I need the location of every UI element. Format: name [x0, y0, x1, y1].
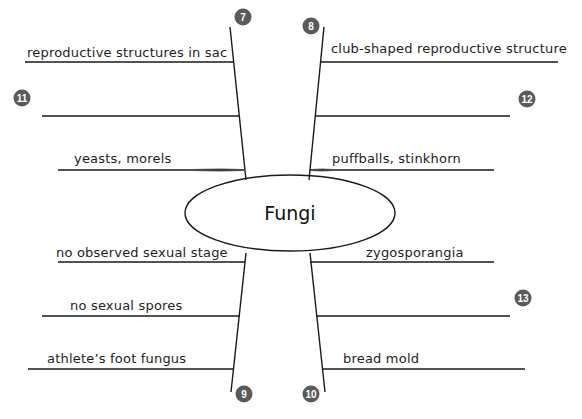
- branch-item-text: no observed sexual stage: [56, 245, 228, 260]
- branch-item-text: club-shaped reproductive structure: [331, 41, 567, 56]
- svg-text:12: 12: [521, 94, 533, 105]
- number-badge-10: 10: [303, 386, 320, 403]
- svg-text:9: 9: [241, 389, 247, 400]
- svg-text:11: 11: [17, 93, 28, 104]
- svg-text:8: 8: [308, 21, 314, 32]
- spine-bottom-left: [231, 253, 246, 392]
- branch-item-text: puffballs, stinkhorn: [332, 151, 461, 166]
- branch-item-text: zygosporangia: [366, 245, 464, 260]
- smudge-mark: [310, 169, 334, 172]
- branch-bottom-right: zygosporangia bread mold 10 13: [303, 245, 532, 403]
- number-badge-12: 12: [519, 91, 536, 108]
- spine-top-left: [230, 27, 246, 180]
- svg-text:10: 10: [305, 389, 317, 400]
- number-badge-7: 7: [235, 9, 252, 26]
- center-node: Fungi: [185, 175, 395, 251]
- branch-item-text: bread mold: [343, 351, 419, 366]
- svg-text:7: 7: [240, 12, 246, 23]
- branch-top-right: club-shaped reproductive structure puffb…: [303, 18, 567, 181]
- svg-text:13: 13: [517, 293, 529, 304]
- branch-top-left: reproductive structures in sac yeasts, m…: [14, 9, 252, 181]
- spine-bottom-right: [310, 253, 325, 392]
- number-badge-11: 11: [14, 90, 31, 107]
- fungi-concept-map: Fungi reproductive structures in sac yea…: [0, 0, 582, 419]
- number-badge-9: 9: [236, 386, 253, 403]
- branch-item-text: reproductive structures in sac: [27, 45, 227, 60]
- center-label: Fungi: [264, 202, 315, 224]
- number-badge-13: 13: [515, 290, 532, 307]
- branch-bottom-left: no observed sexual stage no sexual spore…: [28, 245, 253, 403]
- smudge-mark: [190, 169, 242, 172]
- number-badge-8: 8: [303, 18, 320, 35]
- branch-item-text: no sexual spores: [70, 298, 183, 313]
- spine-top-right: [309, 27, 324, 180]
- branch-item-text: athlete’s foot fungus: [47, 351, 186, 366]
- branch-item-text: yeasts, morels: [74, 151, 171, 166]
